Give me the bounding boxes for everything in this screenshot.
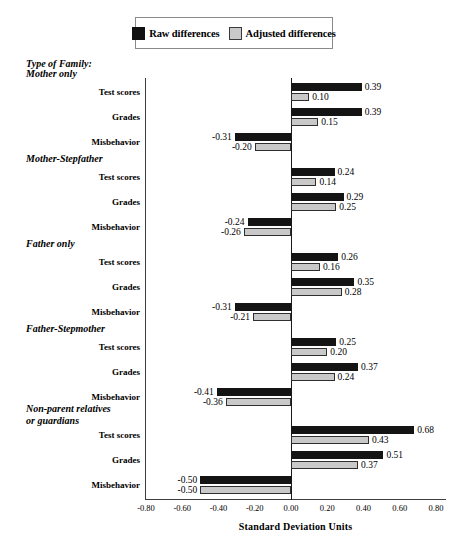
bar-adjusted-difference [244, 228, 291, 236]
bar-value-label: 0.14 [319, 177, 336, 187]
bar-adjusted-difference [291, 93, 309, 101]
x-tick-label: 0.60 [392, 503, 407, 513]
bar-adjusted-difference [291, 178, 316, 186]
bar-value-label: -0.31 [212, 302, 232, 312]
bar-adjusted-difference [255, 143, 291, 151]
x-tick-label: 0.40 [356, 503, 371, 513]
bar-value-label: 0.35 [357, 277, 374, 287]
bar-adjusted-difference [253, 313, 291, 321]
group-title: Mother only [26, 68, 77, 80]
bar-value-label: 0.51 [386, 450, 403, 460]
group-title: Mother-Stepfather [26, 153, 103, 165]
bar-value-label: -0.26 [221, 227, 241, 237]
row-label: Misbehavior [92, 137, 141, 147]
bar-raw-difference [291, 83, 362, 91]
x-tick-label: -0.80 [137, 503, 155, 513]
plot-area: Test scores0.390.10Grades0.390.15Misbeha… [145, 78, 446, 500]
chart-row: Misbehavior-0.41-0.36 [145, 387, 446, 409]
bar-raw-difference [248, 218, 292, 226]
gray-square-icon [229, 27, 242, 40]
bottom-axis-line [145, 499, 446, 500]
bar-value-label: 0.10 [312, 92, 329, 102]
bar-raw-difference [291, 363, 358, 371]
bar-value-label: 0.68 [417, 425, 434, 435]
row-label: Misbehavior [92, 392, 141, 402]
chart-row: Misbehavior-0.31-0.20 [145, 132, 446, 154]
row-label: Misbehavior [92, 307, 141, 317]
chart-row: Grades0.510.37 [145, 450, 446, 472]
bar-value-label: -0.21 [230, 312, 250, 322]
chart-row: Test scores0.240.14 [145, 167, 446, 189]
bar-raw-difference [291, 253, 338, 261]
bar-adjusted-difference [291, 203, 336, 211]
x-tick-label: 0.00 [284, 503, 299, 513]
chart-row: Test scores0.390.10 [145, 82, 446, 104]
bar-value-label: 0.26 [341, 252, 358, 262]
bar-adjusted-difference [291, 288, 342, 296]
x-tick-label: -0.40 [210, 503, 228, 513]
group-title: Father only [26, 238, 75, 250]
row-label: Grades [112, 282, 140, 292]
bar-value-label: 0.29 [347, 192, 364, 202]
row-label: Test scores [99, 172, 140, 182]
chart-row: Test scores0.680.43 [145, 425, 446, 447]
black-square-icon [132, 27, 145, 40]
bar-raw-difference [291, 426, 414, 434]
bar-raw-difference [200, 476, 291, 484]
bar-adjusted-difference [200, 486, 291, 494]
chart-row: Test scores0.250.20 [145, 337, 446, 359]
bar-value-label: -0.36 [203, 397, 223, 407]
chart-row: Grades0.290.25 [145, 192, 446, 214]
chart-legend: Raw differences Adjusted differences [135, 17, 333, 49]
bar-value-label: -0.50 [178, 485, 198, 495]
bar-value-label: 0.25 [339, 337, 356, 347]
bar-value-label: -0.31 [212, 132, 232, 142]
row-label: Test scores [99, 87, 140, 97]
bar-raw-difference [291, 108, 362, 116]
row-label: Test scores [99, 430, 140, 440]
group-title: Father-Stepmother [26, 323, 105, 335]
chart-row: Grades0.350.28 [145, 277, 446, 299]
row-label: Test scores [99, 257, 140, 267]
x-tick-label: 0.20 [320, 503, 335, 513]
bar-adjusted-difference [291, 461, 358, 469]
bar-value-label: 0.37 [361, 362, 378, 372]
bar-raw-difference [291, 451, 383, 459]
legend-label-raw: Raw differences [149, 28, 219, 39]
row-label: Test scores [99, 342, 140, 352]
row-label: Misbehavior [92, 480, 141, 490]
row-label: Grades [112, 112, 140, 122]
bar-value-label: 0.43 [372, 435, 389, 445]
bar-value-label: 0.16 [323, 262, 340, 272]
row-label: Grades [112, 197, 140, 207]
legend-entry-raw: Raw differences [132, 27, 219, 40]
bar-adjusted-difference [291, 436, 369, 444]
bar-raw-difference [235, 133, 291, 141]
group-title: Non-parent relatives or guardians [26, 403, 111, 427]
bar-value-label: -0.20 [232, 142, 252, 152]
x-axis-title: Standard Deviation Units [145, 521, 446, 532]
bar-value-label: 0.37 [361, 460, 378, 470]
bar-raw-difference [291, 338, 336, 346]
bar-value-label: -0.50 [178, 475, 198, 485]
x-tick-label: -0.60 [173, 503, 191, 513]
bar-value-label: 0.15 [321, 117, 338, 127]
bar-value-label: 0.24 [338, 167, 355, 177]
x-tick-label: 0.80 [429, 503, 444, 513]
chart-row: Misbehavior-0.24-0.26 [145, 217, 446, 239]
chart-row: Grades0.370.24 [145, 362, 446, 384]
bar-adjusted-difference [291, 263, 320, 271]
row-label: Grades [112, 455, 140, 465]
bar-raw-difference [235, 303, 291, 311]
bar-adjusted-difference [226, 398, 291, 406]
bar-value-label: 0.25 [339, 202, 356, 212]
chart-row: Misbehavior-0.31-0.21 [145, 302, 446, 324]
bar-value-label: 0.39 [365, 82, 382, 92]
bar-value-label: 0.39 [365, 107, 382, 117]
bar-adjusted-difference [291, 373, 335, 381]
legend-label-adjusted: Adjusted differences [246, 28, 336, 39]
bar-adjusted-difference [291, 118, 318, 126]
bar-raw-difference [217, 388, 291, 396]
chart-row: Test scores0.260.16 [145, 252, 446, 274]
chart-row: Grades0.390.15 [145, 107, 446, 129]
